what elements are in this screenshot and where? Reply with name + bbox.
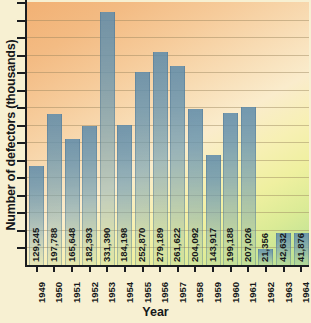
x-axis-tick xyxy=(71,267,73,272)
bar[interactable]: 197,788 xyxy=(47,114,62,265)
bar[interactable]: 331,390 xyxy=(100,12,115,265)
y-axis-tick xyxy=(17,37,26,39)
y-axis-tick xyxy=(17,247,26,249)
gridline xyxy=(27,55,309,56)
gridline xyxy=(27,90,309,91)
y-axis-tick xyxy=(17,177,26,179)
x-axis-label: 1959 xyxy=(205,273,219,305)
bar[interactable]: 252,870 xyxy=(135,72,150,265)
x-axis-label-text: 1956 xyxy=(159,282,170,303)
bar-value-label: 197,788 xyxy=(48,228,59,262)
y-axis-tick xyxy=(17,160,26,162)
x-axis-label: 1958 xyxy=(187,273,201,305)
x-axis-label-text: 1955 xyxy=(142,282,153,303)
x-axis-label: 1963 xyxy=(276,273,290,305)
y-axis-tick xyxy=(17,125,26,127)
x-axis-label: 1960 xyxy=(223,273,237,305)
bar[interactable]: 204,092 xyxy=(188,109,203,265)
bar-chart: Number of defectors (thousands) 129,2451… xyxy=(0,0,311,323)
x-axis-label: 1961 xyxy=(240,273,254,305)
x-axis-label: 1950 xyxy=(46,273,60,305)
x-axis-label: 1954 xyxy=(117,273,131,305)
x-axis-label: 1955 xyxy=(135,273,149,305)
bar[interactable]: 279,189 xyxy=(153,52,168,265)
bar[interactable]: 42,632 xyxy=(276,233,291,265)
plot-area: 129,245197,788165,648182,393331,390184,1… xyxy=(27,2,309,265)
bar[interactable]: 199,188 xyxy=(223,113,238,265)
bar[interactable]: 182,393 xyxy=(82,126,97,265)
gridline xyxy=(27,20,309,21)
x-axis-label-text: 1962 xyxy=(265,282,276,303)
x-axis-label: 1962 xyxy=(258,273,272,305)
x-axis-label: 1956 xyxy=(152,273,166,305)
y-axis-tick xyxy=(17,72,26,74)
x-axis-tick xyxy=(194,267,196,272)
x-axis-tick xyxy=(142,267,144,272)
y-axis-tick xyxy=(17,55,26,57)
x-axis-label: 1957 xyxy=(170,273,184,305)
gridline xyxy=(27,125,309,126)
x-axis-tick xyxy=(36,267,38,272)
bar-value-label: 41,876 xyxy=(295,233,306,262)
bar-value-label: 165,648 xyxy=(66,228,77,262)
bar-value-label: 252,870 xyxy=(136,228,147,262)
x-axis-tick xyxy=(89,267,91,272)
x-axis-label-text: 1953 xyxy=(106,282,117,303)
x-axis-tick xyxy=(265,267,267,272)
y-axis-tick xyxy=(17,230,26,232)
bar[interactable]: 207,026 xyxy=(241,107,256,265)
x-axis-label-text: 1961 xyxy=(247,282,258,303)
bar-value-label: 199,188 xyxy=(224,228,235,262)
bar[interactable]: 184,198 xyxy=(117,125,132,265)
gridline xyxy=(27,37,309,38)
gridline xyxy=(27,107,309,108)
y-axis-tick xyxy=(17,2,26,4)
bar-value-label: 261,622 xyxy=(171,228,182,262)
x-axis-tick xyxy=(177,267,179,272)
bar-value-label: 184,198 xyxy=(118,228,129,262)
x-axis-tick xyxy=(124,267,126,272)
bar-value-label: 279,189 xyxy=(154,228,165,262)
x-axis-title: Year xyxy=(0,305,311,319)
x-axis-label-text: 1958 xyxy=(194,282,205,303)
y-axis-tick xyxy=(17,142,26,144)
x-axis-label-text: 1954 xyxy=(124,282,135,303)
y-axis-tick xyxy=(17,212,26,214)
y-axis-tick xyxy=(17,20,26,22)
gridline xyxy=(27,72,309,73)
x-axis-tick xyxy=(300,267,302,272)
bar[interactable]: 143,917 xyxy=(206,155,221,265)
x-axis-tick xyxy=(247,267,249,272)
y-axis-line xyxy=(25,0,27,267)
bar[interactable]: 165,648 xyxy=(65,139,80,265)
bar-value-label: 204,092 xyxy=(189,228,200,262)
x-axis-tick xyxy=(212,267,214,272)
x-axis-label: 1949 xyxy=(29,273,43,305)
bar-value-label: 207,026 xyxy=(242,228,253,262)
bar-value-label: 129,245 xyxy=(30,228,41,262)
x-axis-label-text: 1957 xyxy=(177,282,188,303)
bar[interactable]: 41,876 xyxy=(294,233,309,265)
bar-value-label: 21,356 xyxy=(259,233,270,262)
bar[interactable]: 129,245 xyxy=(29,166,44,265)
y-axis-tick xyxy=(17,195,26,197)
bar[interactable]: 261,622 xyxy=(170,66,185,265)
x-axis-label: 1953 xyxy=(99,273,113,305)
bar-value-label: 182,393 xyxy=(83,228,94,262)
x-axis-label: 1964 xyxy=(293,273,307,305)
x-axis-tick xyxy=(106,267,108,272)
x-axis-label-text: 1949 xyxy=(36,282,47,303)
bar-value-label: 331,390 xyxy=(101,228,112,262)
bar[interactable]: 21,356 xyxy=(258,249,273,265)
x-axis-tick xyxy=(283,267,285,272)
x-axis-label-text: 1951 xyxy=(71,282,82,303)
x-axis-label-text: 1964 xyxy=(300,282,311,303)
y-axis-tick xyxy=(17,90,26,92)
x-axis-tick xyxy=(159,267,161,272)
bar-value-label: 42,632 xyxy=(277,233,288,262)
x-axis-label-text: 1963 xyxy=(283,282,294,303)
x-axis-label: 1951 xyxy=(64,273,78,305)
x-axis-tick xyxy=(230,267,232,272)
bar-value-label: 143,917 xyxy=(207,228,218,262)
x-axis-tick xyxy=(53,267,55,272)
